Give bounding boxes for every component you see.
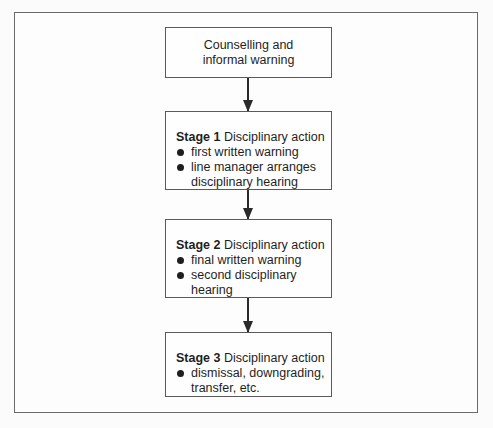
stage-2-label: Stage 2 xyxy=(176,238,220,252)
stage-1-item-continuation: disciplinary hearing xyxy=(176,175,331,190)
node-counselling-line-2: informal warning xyxy=(166,53,331,68)
stage-2-heading: Stage 2 Disciplinary action xyxy=(176,238,331,253)
arrow-down-icon xyxy=(247,298,249,332)
stage-2-item-text: final written warning xyxy=(191,253,301,267)
stage-3-item-continuation: transfer, etc. xyxy=(176,381,331,396)
stage-2-item: final written warning xyxy=(176,253,331,268)
node-counselling-line-1: Counselling and xyxy=(166,38,331,53)
stage-1-item-text: line manager arranges xyxy=(191,160,316,174)
stage-3-item-text: dismissal, downgrading, xyxy=(191,366,324,380)
stage-3-heading: Stage 3 Disciplinary action xyxy=(176,351,331,366)
node-stage-1: Stage 1 Disciplinary action first writte… xyxy=(165,111,332,190)
stage-2-title: Disciplinary action xyxy=(220,238,324,252)
stage-1-item-text: disciplinary hearing xyxy=(191,175,298,189)
stage-2-item: second disciplinary xyxy=(176,268,331,283)
bullet-icon xyxy=(177,164,184,171)
arrow-down-icon xyxy=(247,190,249,219)
stage-1-item: line manager arranges xyxy=(176,160,331,175)
node-counselling: Counselling and informal warning xyxy=(165,27,332,78)
stage-3-title: Disciplinary action xyxy=(220,351,324,365)
stage-1-item: first written warning xyxy=(176,145,331,160)
stage-3-label: Stage 3 xyxy=(176,351,220,365)
stage-2-item-text: second disciplinary xyxy=(191,268,297,282)
bullet-icon xyxy=(177,370,184,377)
stage-3-item-text: transfer, etc. xyxy=(191,381,260,395)
stage-1-title: Disciplinary action xyxy=(220,130,324,144)
arrow-down-icon xyxy=(247,78,249,111)
stage-2-item-text: hearing xyxy=(191,283,233,297)
stage-3-item: dismissal, downgrading, xyxy=(176,366,331,381)
stage-2-item-continuation: hearing xyxy=(176,283,331,298)
stage-1-heading: Stage 1 Disciplinary action xyxy=(176,130,331,145)
node-stage-3: Stage 3 Disciplinary action dismissal, d… xyxy=(165,332,332,397)
bullet-icon xyxy=(177,149,184,156)
bullet-icon xyxy=(177,272,184,279)
node-stage-2: Stage 2 Disciplinary action final writte… xyxy=(165,219,332,298)
bullet-icon xyxy=(177,257,184,264)
stage-1-label: Stage 1 xyxy=(176,130,220,144)
stage-1-item-text: first written warning xyxy=(191,145,299,159)
